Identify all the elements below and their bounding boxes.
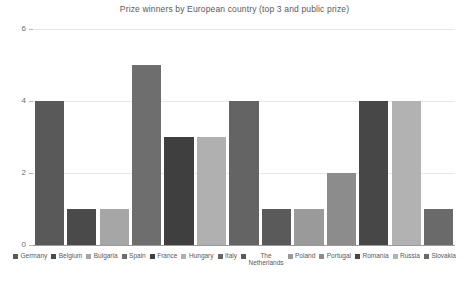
legend-item-label: The Netherlands [248,252,283,266]
legend-item-label: France [157,252,177,259]
bar [262,209,291,245]
bar [35,101,64,245]
legend-item[interactable]: Russia [393,252,420,259]
legend-item-label: Portugal [327,252,351,259]
legend-item[interactable]: Belgium [51,252,82,259]
legend-swatch-icon [241,254,246,259]
bar [132,65,161,245]
legend-item-label: Germany [21,252,48,259]
legend-item[interactable]: Poland [288,252,316,259]
legend-item-label: Belgium [59,252,82,259]
bar [164,137,193,245]
bar [294,209,323,245]
chart-legend: GermanyBelgiumBulgariaSpainFranceHungary… [0,252,469,266]
bar [359,101,388,245]
plot-area: 0246 [33,29,455,246]
legend-item[interactable]: Portugal [319,252,351,259]
legend-item-label: Russia [400,252,420,259]
legend-swatch-icon [181,254,186,259]
chart-title: Prize winners by European country (top 3… [0,4,469,14]
legend-swatch-icon [319,254,324,259]
bar [229,101,258,245]
legend-item[interactable]: Slovakia [424,252,456,259]
legend-swatch-icon [122,254,127,259]
legend-swatch-icon [218,254,223,259]
x-axis-line [33,245,455,246]
legend-item[interactable]: Romania [355,252,389,259]
legend-swatch-icon [424,254,429,259]
legend-item-label: Italy [225,252,237,259]
bar [392,101,421,245]
bar [197,137,226,245]
legend-swatch-icon [355,254,360,259]
y-axis-tick-label: 4 [8,97,26,105]
legend-item[interactable]: Germany [13,252,47,259]
legend-item[interactable]: Hungary [181,252,213,259]
bar-chart: Prize winners by European country (top 3… [0,0,469,281]
legend-item[interactable]: France [150,252,178,259]
y-axis-tick-label: 0 [8,241,26,249]
legend-item-label: Slovakia [431,252,456,259]
bar [100,209,129,245]
bar-series [33,29,455,245]
y-axis-tick-label: 2 [8,169,26,177]
legend-item[interactable]: Spain [122,252,146,259]
legend-item[interactable]: The Netherlands [241,252,284,266]
y-axis-tick-label: 6 [8,25,26,33]
legend-item-label: Romania [363,252,389,259]
legend-swatch-icon [288,254,293,259]
legend-item[interactable]: Italy [218,252,237,259]
legend-item-label: Hungary [189,252,214,259]
legend-swatch-icon [13,254,18,259]
bar [424,209,453,245]
legend-swatch-icon [393,254,398,259]
legend-swatch-icon [51,254,56,259]
bar [67,209,96,245]
legend-item-label: Poland [295,252,315,259]
legend-swatch-icon [150,254,155,259]
legend-item[interactable]: Bulgaria [86,252,117,259]
legend-item-label: Bulgaria [94,252,118,259]
bar [327,173,356,245]
legend-swatch-icon [86,254,91,259]
legend-item-label: Spain [129,252,146,259]
